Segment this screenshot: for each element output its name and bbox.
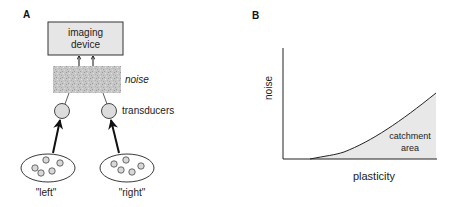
panel-a: A imaging device noise transducers <box>21 9 174 198</box>
panel-a-label: A <box>23 9 30 20</box>
transducers-label: transducers <box>122 105 174 116</box>
catchment-label-line2: area <box>401 143 419 153</box>
connector-line <box>103 93 107 104</box>
device-label-line2: device <box>71 39 100 50</box>
connector-line <box>65 93 69 104</box>
y-axis-label: noise <box>263 76 274 100</box>
catchment-label-line1: catchment <box>389 131 431 141</box>
arrow-icon <box>53 120 60 153</box>
x-axis-label: plasticity <box>353 170 396 182</box>
right-label: "right" <box>119 187 146 198</box>
device-label-line1: imaging <box>68 27 103 38</box>
noise-label: noise <box>125 74 149 85</box>
noise-band <box>53 66 121 93</box>
population-right <box>100 154 154 182</box>
panel-b: B noise plasticity catchment area <box>252 10 437 182</box>
arrow-icon <box>111 120 119 153</box>
imaging-device-box: imaging device <box>48 22 123 55</box>
population-left <box>21 154 75 182</box>
panel-b-label: B <box>252 10 259 21</box>
transducer-left <box>55 104 70 119</box>
figure: A imaging device noise transducers <box>0 0 457 207</box>
transducer-right <box>102 104 117 119</box>
left-label: "left" <box>36 187 57 198</box>
